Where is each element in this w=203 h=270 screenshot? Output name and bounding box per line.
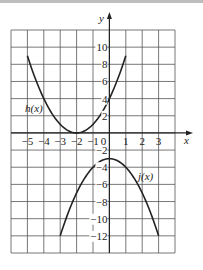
y-tick-label: 2 xyxy=(102,110,108,122)
y-axis-label: y xyxy=(98,12,104,24)
y-tick-label: −12 xyxy=(90,230,107,242)
x-tick-label: −2 xyxy=(71,135,83,147)
x-tick-label: −5 xyxy=(22,135,34,147)
y-tick-label: −2 xyxy=(96,144,108,156)
x-tick-label: 1 xyxy=(123,135,129,147)
function-graph: −5−4−3−2−10123108642−2−4−6−8−10−12 x y h… xyxy=(0,0,203,270)
y-tick-label: 10 xyxy=(96,41,108,53)
tick-labels: −5−4−3−2−10123108642−2−4−6−8−10−12 xyxy=(22,41,162,242)
y-axis-arrow-icon xyxy=(107,12,112,19)
y-tick-label: 6 xyxy=(102,75,108,87)
y-tick-label: −8 xyxy=(96,196,108,208)
y-tick-label: −4 xyxy=(96,161,108,173)
y-tick-label: 4 xyxy=(102,93,108,105)
x-tick-label: 2 xyxy=(139,135,145,147)
x-axis-label: x xyxy=(183,134,189,146)
y-tick-label: 8 xyxy=(102,58,108,70)
x-tick-label: −4 xyxy=(38,135,50,147)
y-tick-label: −6 xyxy=(96,178,108,190)
j-curve-label: j(x) xyxy=(136,170,154,183)
h-curve-label: h(x) xyxy=(25,102,43,115)
x-tick-label: −3 xyxy=(54,135,66,147)
x-tick-label: 3 xyxy=(156,135,162,147)
y-tick-label: −10 xyxy=(90,213,108,225)
